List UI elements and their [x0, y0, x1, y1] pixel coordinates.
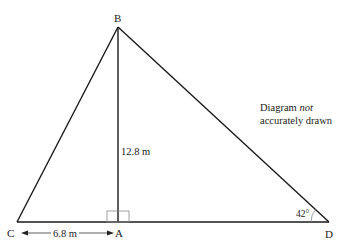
point-label-A: A [115, 227, 123, 239]
arrowhead-right-icon [107, 231, 114, 236]
measurement-CA: 6.8 m [53, 228, 77, 239]
point-label-C: C [7, 227, 14, 239]
note-line-1: Diagram not [260, 102, 314, 113]
point-label-B: B [114, 12, 121, 24]
triangle-diagram: B C A D 12.8 m 6.8 m 42° Diagram not acc… [0, 0, 350, 248]
note-line-2: accurately drawn [260, 115, 333, 126]
arrowhead-left-icon [21, 231, 28, 236]
note-word-diagram: Diagram [260, 102, 297, 113]
side-CB [17, 27, 118, 222]
measurement-AB: 12.8 m [121, 146, 150, 157]
angle-label-D: 42° [296, 209, 310, 219]
angle-arc-D [311, 210, 316, 222]
point-label-D: D [325, 228, 333, 240]
diagram-canvas: B C A D 12.8 m 6.8 m 42° Diagram not acc… [0, 0, 350, 248]
note-word-not: not [299, 102, 314, 113]
